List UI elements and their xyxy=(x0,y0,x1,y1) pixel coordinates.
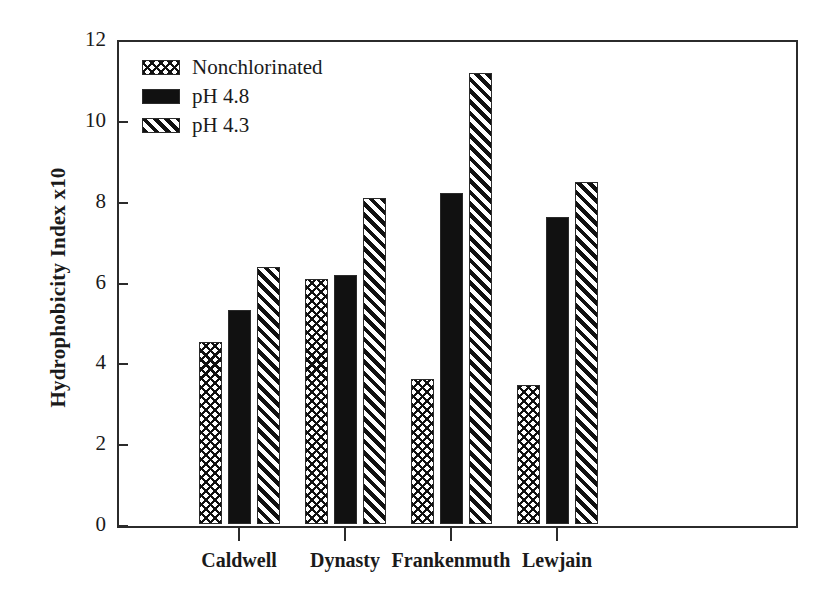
bar-dynasty-nonchlorinated xyxy=(305,279,328,524)
bar-frankenmuth-nonchlorinated xyxy=(411,379,434,525)
x-axis-tick xyxy=(238,528,240,541)
y-axis-tick-label: 10 xyxy=(60,108,106,133)
legend-item: pH 4.3 xyxy=(142,116,442,145)
bar-chart-figure: Hydrophobicity Index x10 024681012 Caldw… xyxy=(0,0,835,591)
x-axis-tick xyxy=(344,528,346,541)
bar-caldwell-ph-4-8 xyxy=(228,310,251,524)
x-axis-tick xyxy=(450,528,452,541)
y-axis-tick-label: 2 xyxy=(60,431,106,456)
y-axis-tick-label: 6 xyxy=(60,270,106,295)
chart-legend: NonchlorinatedpH 4.8pH 4.3 xyxy=(142,58,442,145)
bar-frankenmuth-ph-4-3 xyxy=(469,73,492,524)
bar-lewjain-ph-4-3 xyxy=(575,182,598,524)
bar-dynasty-ph-4-3 xyxy=(363,198,386,524)
legend-swatch-icon xyxy=(142,60,180,75)
bar-lewjain-ph-4-8 xyxy=(546,217,569,524)
x-axis-category-label: Lewjain xyxy=(467,549,647,572)
legend-item-label: pH 4.3 xyxy=(192,113,249,138)
legend-item-label: pH 4.8 xyxy=(192,84,249,109)
bar-caldwell-ph-4-3 xyxy=(257,267,280,524)
y-axis-tick-label: 0 xyxy=(60,512,106,537)
y-axis-tick-label: 4 xyxy=(60,350,106,375)
legend-swatch-icon xyxy=(142,89,180,104)
bar-frankenmuth-ph-4-8 xyxy=(440,193,463,524)
x-axis-tick xyxy=(556,528,558,541)
bar-dynasty-ph-4-8 xyxy=(334,275,357,524)
legend-item-label: Nonchlorinated xyxy=(192,55,323,80)
legend-item: Nonchlorinated xyxy=(142,58,442,87)
bar-lewjain-nonchlorinated xyxy=(517,385,540,524)
bar-caldwell-nonchlorinated xyxy=(199,342,222,524)
legend-item: pH 4.8 xyxy=(142,87,442,116)
legend-swatch-icon xyxy=(142,118,180,133)
y-axis-tick-label: 12 xyxy=(60,27,106,52)
y-axis-tick-label: 8 xyxy=(60,189,106,214)
